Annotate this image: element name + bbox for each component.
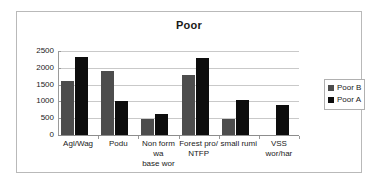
chart-title: Poor — [17, 19, 361, 31]
y-axis-tick-label: 2000 — [36, 64, 54, 72]
x-axis-category-label: VSS wor/har — [259, 139, 299, 159]
bar-group — [259, 51, 299, 135]
bar-poor-b[interactable] — [61, 81, 74, 135]
legend-swatch-icon — [328, 85, 334, 91]
y-axis-tick-label: 1500 — [36, 81, 54, 89]
x-axis-category-label: Agl/Wag — [58, 139, 98, 149]
x-axis-category-label: small rumi — [219, 139, 259, 149]
bar-poor-b[interactable] — [101, 71, 114, 136]
y-axis-tick-label: 500 — [41, 114, 54, 122]
bar-poor-a[interactable] — [276, 105, 289, 135]
bar-group — [138, 51, 178, 135]
bar-poor-a[interactable] — [155, 114, 168, 135]
bar-poor-a[interactable] — [236, 100, 249, 135]
bar-group — [98, 51, 138, 135]
plot-inner — [58, 51, 299, 136]
y-axis-tick-label: 1000 — [36, 97, 54, 105]
legend-label: Poor B — [337, 84, 361, 92]
bar-poor-b[interactable] — [141, 119, 154, 135]
y-axis-tick-label: 0 — [50, 131, 54, 139]
x-axis-tick-mark — [299, 136, 300, 139]
chart-legend: Poor BPoor A — [324, 79, 365, 110]
x-axis-category-label: Non form wa base wor — [138, 139, 178, 169]
legend-label: Poor A — [337, 96, 361, 104]
bar-poor-b[interactable] — [182, 75, 195, 135]
bar-group — [179, 51, 219, 135]
plot-area — [58, 51, 299, 136]
x-axis-category-label: Forest pro/ NTFP — [179, 139, 219, 159]
bar-poor-b[interactable] — [222, 119, 235, 135]
bar-group — [58, 51, 98, 135]
chart-frame: Poor 05001000150020002500 Agl/WagPoduNon… — [16, 11, 362, 173]
legend-item[interactable]: Poor A — [328, 94, 361, 106]
y-axis-tick-label: 2500 — [36, 47, 54, 55]
y-axis-tick-labels: 05001000150020002500 — [23, 51, 54, 136]
legend-item[interactable]: Poor B — [328, 82, 361, 94]
bar-poor-a[interactable] — [196, 58, 209, 135]
x-axis-category-labels: Agl/WagPoduNon form wa base worForest pr… — [58, 139, 299, 185]
legend-swatch-icon — [328, 97, 334, 103]
bar-group — [219, 51, 259, 135]
bar-poor-a[interactable] — [115, 101, 128, 135]
bar-poor-a[interactable] — [75, 57, 88, 135]
x-axis-category-label: Podu — [98, 139, 138, 149]
